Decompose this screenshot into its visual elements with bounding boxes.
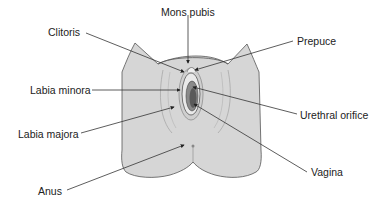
label-mons-pubis: Mons pubis [161, 6, 215, 18]
label-labia-majora: Labia majora [18, 128, 79, 140]
anatomy-diagram: Mons pubis Clitoris Prepuce Labia minora… [0, 0, 386, 204]
label-prepuce: Prepuce [297, 35, 336, 47]
label-vagina: Vagina [311, 166, 343, 178]
label-anus: Anus [38, 185, 62, 197]
label-labia-minora: Labia minora [30, 84, 91, 96]
label-urethral-orifice: Urethral orifice [300, 109, 368, 121]
label-clitoris: Clitoris [48, 26, 80, 38]
